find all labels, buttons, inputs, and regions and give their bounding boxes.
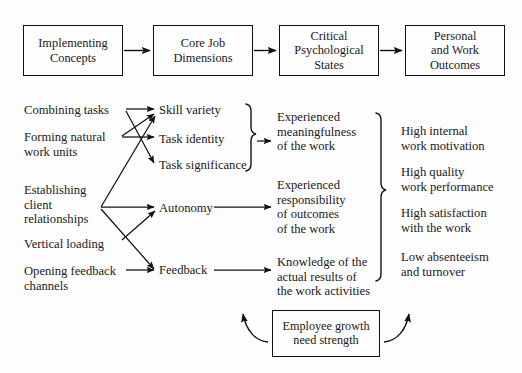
- box-critical-psychological-states: Critical Psychological States: [279, 25, 379, 76]
- arrow-forming-to-skill-variety: [122, 114, 154, 136]
- label-experienced-meaningfulness: Experienced meaningfulness of the work: [277, 110, 356, 154]
- arrow-establishing-to-feedback: [101, 209, 154, 269]
- label-high-satisfaction-with-the-work: High satisfaction with the work: [401, 206, 487, 235]
- label-establishing-client-relationships: Establishing client relationships: [24, 183, 88, 227]
- label-task-significance: Task significance: [159, 158, 247, 173]
- arrow-moderator-left: [243, 314, 268, 342]
- label-autonomy: Autonomy: [159, 201, 213, 216]
- label-high-internal-work-motivation: High internal work motivation: [401, 124, 485, 153]
- label-knowledge-of-results: Knowledge of the actual results of the w…: [277, 255, 370, 299]
- box-core-job-dimensions: Core Job Dimensions: [153, 25, 253, 76]
- label-experienced-responsibility: Experienced responsibility of outcomes o…: [277, 178, 346, 237]
- box-personal-and-work-outcomes: Personal and Work Outcomes: [405, 25, 505, 76]
- arrow-establishing-to-skill-variety: [101, 116, 155, 207]
- job-characteristics-model-diagram: Implementing Concepts Core Job Dimension…: [0, 0, 522, 373]
- arrow-moderator-right: [384, 314, 409, 342]
- label-opening-feedback-channels: Opening feedback channels: [24, 264, 116, 293]
- box-employee-growth-need-strength: Employee growth need strength: [272, 310, 380, 357]
- label-feedback: Feedback: [159, 263, 207, 278]
- label-low-absenteeism-and-turnover: Low absenteeism and turnover: [401, 250, 489, 279]
- label-combining-tasks: Combining tasks: [24, 103, 109, 118]
- label-skill-variety: Skill variety: [159, 103, 221, 118]
- label-vertical-loading: Vertical loading: [24, 237, 104, 252]
- arrow-vertical-loading-to-autonomy: [122, 211, 155, 240]
- arrow-combining-to-task-significance: [126, 111, 154, 163]
- box-implementing-concepts: Implementing Concepts: [23, 25, 123, 76]
- brace-core-dimensions: [246, 104, 256, 171]
- label-task-identity: Task identity: [159, 132, 224, 147]
- brace-psychological-states: [376, 113, 386, 281]
- label-high-quality-work-performance: High quality work performance: [401, 165, 494, 194]
- label-forming-natural-work-units: Forming natural work units: [24, 130, 106, 159]
